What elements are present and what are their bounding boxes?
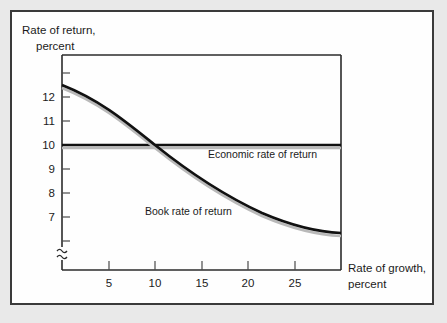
- x-axis-title: Rate of growth, percent: [348, 262, 426, 290]
- y-axis-title: Rate of return, percent: [22, 24, 96, 52]
- plot-frame: [62, 55, 341, 270]
- chart-canvas: 12 11 10 9 8 7 5 10 15 20 25 Rate of ret…: [0, 0, 447, 323]
- y-tick-label: 8: [49, 187, 55, 199]
- x-tick-label: 15: [196, 277, 209, 289]
- x-axis: [62, 261, 341, 270]
- x-tick-label: 10: [149, 277, 162, 289]
- y-tick-label: 9: [49, 163, 55, 175]
- x-tick-label: 20: [242, 277, 255, 289]
- x-tick-label: 25: [289, 277, 302, 289]
- economic-series-label: Economic rate of return: [208, 148, 317, 160]
- figure-root: 12 11 10 9 8 7 5 10 15 20 25 Rate of ret…: [0, 0, 447, 323]
- x-axis-title-line2: percent: [348, 278, 387, 290]
- y-tick-labels: 12 11 10 9 8 7: [42, 91, 55, 223]
- y-tick-label: 12: [42, 91, 55, 103]
- y-axis-title-line1: Rate of return,: [22, 24, 96, 36]
- axis-break-icon: [57, 249, 67, 258]
- y-tick-label: 7: [49, 211, 55, 223]
- x-tick-labels: 5 10 15 20 25: [106, 277, 302, 289]
- y-tick-label: 10: [42, 139, 55, 151]
- book-series-label: Book rate of return: [145, 205, 232, 217]
- x-tick-label: 5: [106, 277, 112, 289]
- x-axis-title-line1: Rate of growth,: [348, 262, 426, 274]
- y-axis-title-line2: percent: [36, 40, 75, 52]
- y-tick-label: 11: [43, 115, 55, 127]
